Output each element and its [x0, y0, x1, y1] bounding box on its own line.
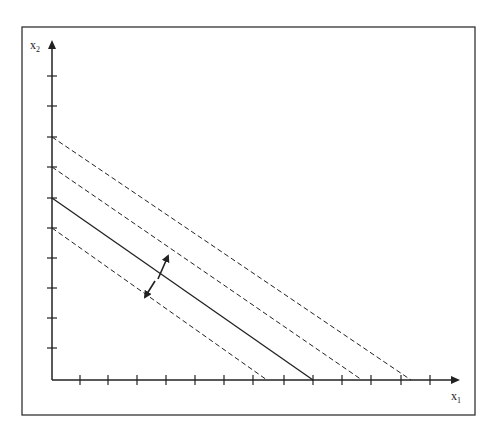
- x-axis-label: x1: [451, 389, 461, 405]
- middle-dashed-line: [52, 167, 362, 380]
- inner-dashed-line: [52, 228, 267, 380]
- axes: [52, 42, 458, 380]
- ticks: [47, 76, 430, 385]
- shift-in-arrow-icon: [145, 281, 155, 297]
- budget-line: [52, 198, 313, 380]
- diagram: [0, 0, 493, 440]
- outer-dashed-line: [52, 137, 411, 380]
- lines: [52, 137, 411, 380]
- y-axis-label: x2: [30, 38, 40, 54]
- frame: [22, 27, 475, 415]
